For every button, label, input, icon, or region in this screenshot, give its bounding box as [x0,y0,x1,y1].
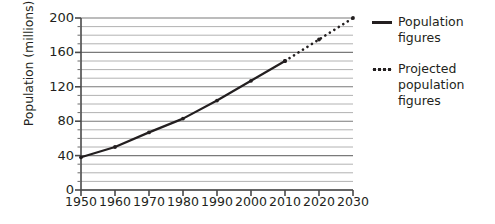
data-point-marker [79,155,83,159]
legend-label: Projected population figures [398,61,492,108]
chart-legend: Population figures Projected population … [372,14,492,124]
data-point-marker [283,59,287,63]
data-point-marker [249,79,253,83]
data-point-marker [147,130,151,134]
legend-label: Population figures [398,14,492,45]
population-line-chart: 04080120160200 Population (millions) Pop… [0,0,495,224]
data-point-marker [181,117,185,121]
data-point-marker [317,38,321,42]
dotted-line-key [372,61,398,71]
data-point-marker [113,145,117,149]
data-point-marker [351,16,355,20]
legend-item-population-figures: Population figures [372,14,492,45]
data-point-marker [215,99,219,103]
data-series-line [81,61,285,157]
x-axis-tick-label: 2030 [331,196,375,209]
solid-line-key [372,14,398,24]
legend-item-projected-population-figures: Projected population figures [372,61,492,108]
